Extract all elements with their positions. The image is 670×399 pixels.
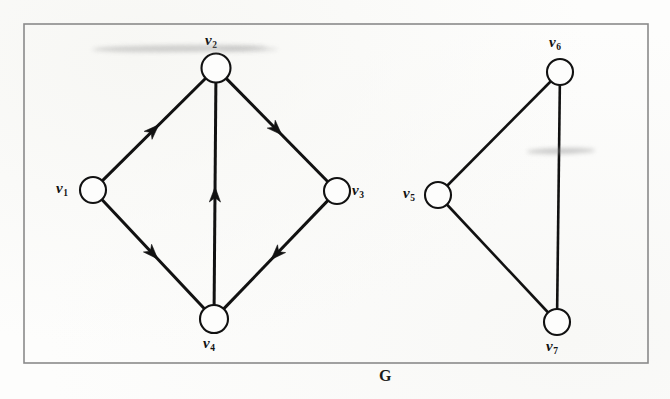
node-label-letter: v	[546, 338, 553, 354]
edge-v4-v2	[209, 82, 220, 305]
node-v7[interactable]	[544, 309, 570, 335]
node-label-subscript: 1	[63, 188, 68, 198]
node-label-subscript: 5	[410, 193, 415, 203]
node-label-v7: v7	[546, 339, 557, 354]
node-label-letter: v	[549, 34, 556, 50]
node-label-subscript: 4	[210, 343, 215, 353]
node-label-v1: v1	[56, 181, 67, 196]
node-label-letter: v	[56, 180, 63, 196]
edge-v6-v7	[557, 85, 560, 309]
node-label-letter: v	[205, 32, 212, 48]
node-v4[interactable]	[200, 305, 228, 333]
node-label-letter: v	[352, 182, 359, 198]
edge-v3-v4	[224, 200, 328, 309]
figure-page: v1v2v3v4v5v6v7 G	[0, 0, 670, 399]
node-v1[interactable]	[80, 177, 106, 203]
edge-v5-v7	[447, 204, 548, 312]
edge-v1-v2	[102, 78, 205, 181]
node-label-subscript: 7	[553, 346, 558, 356]
node-v3[interactable]	[324, 178, 350, 204]
edge-line	[557, 85, 560, 309]
graph-diagram	[0, 0, 670, 399]
graph-caption: G	[379, 368, 391, 384]
edge-v5-v6	[447, 81, 551, 186]
node-label-v2: v2	[205, 33, 216, 48]
edge-v2-v3	[226, 78, 328, 181]
edge-line	[447, 204, 548, 312]
node-v2[interactable]	[202, 54, 231, 83]
edge-v1-v4	[102, 199, 205, 308]
node-label-v5: v5	[403, 186, 414, 201]
nodes-group	[80, 54, 573, 336]
node-v6[interactable]	[547, 59, 573, 85]
edge-line	[447, 81, 551, 186]
node-label-letter: v	[403, 185, 410, 201]
node-label-v4: v4	[203, 336, 214, 351]
node-label-v6: v6	[549, 35, 560, 50]
node-label-v3: v3	[352, 183, 363, 198]
node-v5[interactable]	[425, 182, 451, 208]
node-label-subscript: 3	[359, 190, 364, 200]
node-label-subscript: 2	[212, 40, 217, 50]
node-label-subscript: 6	[556, 42, 561, 52]
node-label-letter: v	[203, 335, 210, 351]
